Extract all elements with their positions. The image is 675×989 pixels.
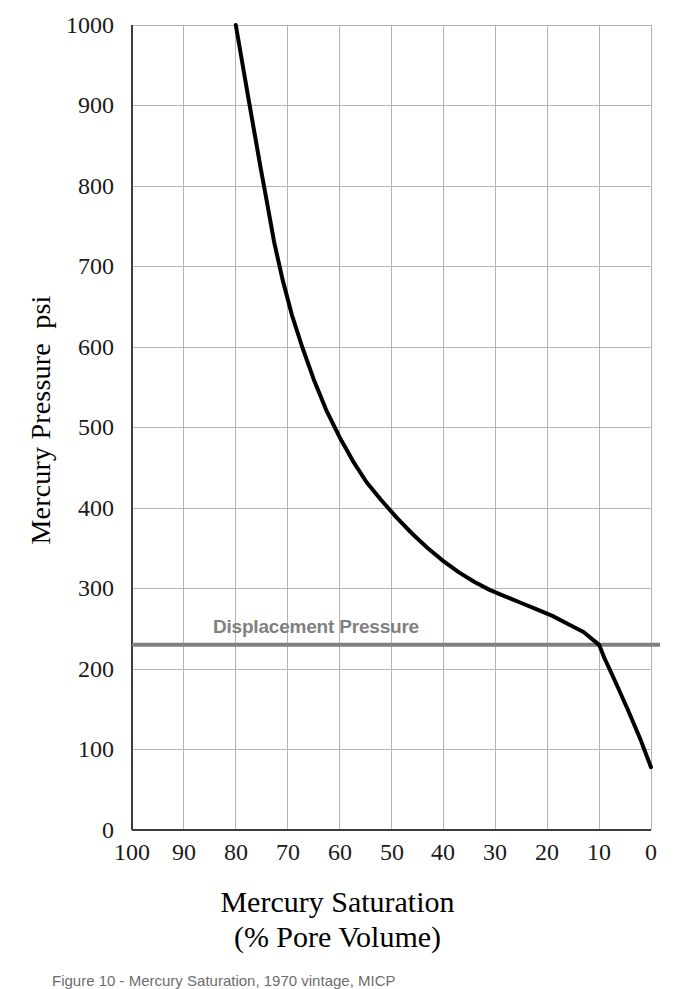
y-tick-900: 900 xyxy=(44,93,114,117)
x-tick-10: 10 xyxy=(569,840,629,864)
y-tick-1000: 1000 xyxy=(44,13,114,37)
x-tick-70: 70 xyxy=(258,840,318,864)
x-tick-60: 60 xyxy=(310,840,370,864)
x-axis-title: Mercury Saturation (% Pore Volume) xyxy=(0,884,675,954)
x-tick-90: 90 xyxy=(154,840,214,864)
y-tick-200: 200 xyxy=(44,657,114,681)
y-tick-300: 300 xyxy=(44,576,114,600)
y-tick-600: 600 xyxy=(44,335,114,359)
y-tick-500: 500 xyxy=(44,415,114,439)
x-tick-30: 30 xyxy=(465,840,525,864)
x-axis-title-line2: (% Pore Volume) xyxy=(0,919,675,954)
x-tick-20: 20 xyxy=(517,840,577,864)
x-tick-40: 40 xyxy=(413,840,473,864)
x-axis-title-line1: Mercury Saturation xyxy=(0,884,675,919)
y-tick-700: 700 xyxy=(44,254,114,278)
x-tick-80: 80 xyxy=(206,840,266,864)
capillary-pressure-chart: Mercury Pressure psi xyxy=(0,0,675,989)
y-tick-400: 400 xyxy=(44,496,114,520)
x-tick-0: 0 xyxy=(621,840,675,864)
y-tick-800: 800 xyxy=(44,174,114,198)
x-tick-100: 100 xyxy=(102,840,162,864)
figure-caption: Figure 10 - Mercury Saturation, 1970 vin… xyxy=(52,972,652,989)
displacement-pressure-label: Displacement Pressure xyxy=(213,616,419,638)
y-tick-0: 0 xyxy=(44,818,114,842)
y-tick-100: 100 xyxy=(44,737,114,761)
